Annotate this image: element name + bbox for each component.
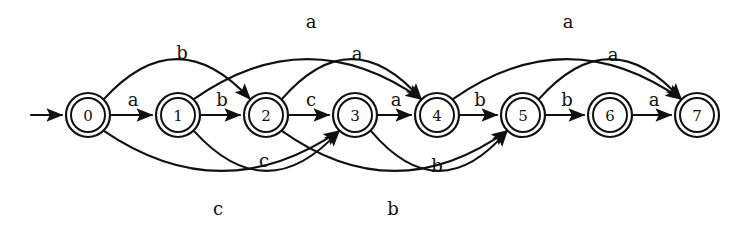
state-2[interactable]: 2: [244, 93, 288, 137]
transition-label-3-5: b: [431, 155, 443, 176]
transition-label-2-3: c: [306, 89, 316, 110]
transition-label-4-7: a: [563, 11, 574, 32]
transition-label-4-5: b: [474, 89, 486, 110]
transition-label-1-3: c: [259, 150, 269, 171]
state-0[interactable]: 0: [66, 93, 110, 137]
transition-label-1-2: b: [216, 89, 228, 110]
transition-label-2-5: b: [387, 198, 399, 219]
transition-2-5-b: [282, 131, 507, 171]
transition-label-5-6: b: [561, 89, 573, 110]
state-5[interactable]: 5: [501, 93, 545, 137]
transition-label-5-7: a: [608, 44, 619, 65]
state-label: 2: [261, 107, 271, 125]
transition-label-2-4: a: [352, 43, 363, 64]
automaton-canvas: 01234567 abcabbabaaaaccbb: [0, 0, 748, 238]
state-label: 7: [692, 107, 702, 125]
state-6[interactable]: 6: [588, 93, 632, 137]
state-label: 4: [432, 107, 442, 125]
state-label: 5: [518, 107, 528, 125]
state-label: 3: [350, 107, 360, 125]
state-4[interactable]: 4: [415, 93, 459, 137]
transition-0-3-c: [104, 131, 339, 171]
state-label: 1: [173, 107, 183, 125]
state-label: 6: [605, 107, 615, 125]
transition-label-6-7: a: [649, 89, 660, 110]
state-3[interactable]: 3: [333, 93, 377, 137]
state-7[interactable]: 7: [675, 93, 719, 137]
state-1[interactable]: 1: [156, 93, 200, 137]
state-label: 0: [83, 107, 93, 125]
transition-label-3-4: a: [391, 89, 402, 110]
transition-label-0-1: a: [128, 89, 139, 110]
transition-label-1-4: a: [306, 11, 317, 32]
transition-label-0-3: c: [213, 198, 223, 219]
transition-label-0-2: b: [176, 42, 188, 63]
automaton-diagram-page: 01234567 abcabbabaaaaccbb: [0, 0, 748, 238]
